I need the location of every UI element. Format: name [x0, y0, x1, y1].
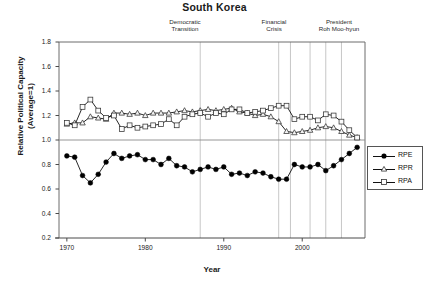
data-point-filled-circle [276, 177, 281, 182]
data-point-open-square [151, 123, 156, 128]
series-rpe [64, 145, 359, 185]
data-point-filled-circle [206, 165, 211, 170]
data-point-open-square [308, 114, 313, 119]
data-point-open-square [316, 118, 321, 123]
open-square-icon [380, 178, 388, 186]
legend-label-rpe: RPE [398, 151, 412, 158]
filled-circle-icon [380, 152, 388, 160]
data-point-open-square [276, 103, 281, 108]
chart-figure: South Korea Democratic Transition Financ… [0, 0, 429, 289]
data-point-open-square [300, 114, 305, 119]
legend-item-rpr[interactable]: RPR [371, 163, 423, 175]
data-point-open-square [80, 105, 85, 110]
data-point-filled-circle [190, 169, 195, 174]
data-point-open-square [284, 103, 289, 108]
data-point-open-square [72, 123, 77, 128]
data-point-open-square [347, 128, 352, 133]
data-point-open-triangle [276, 119, 282, 124]
data-point-open-square [104, 116, 109, 121]
data-point-filled-circle [221, 165, 226, 170]
plot-area [0, 0, 429, 289]
legend-label-rpr: RPR [398, 164, 413, 171]
data-point-open-triangle [323, 124, 329, 129]
data-point-open-square [159, 122, 164, 127]
data-point-filled-circle [245, 173, 250, 178]
data-point-open-square [64, 120, 69, 125]
legend-label-rpa: RPA [398, 177, 412, 184]
data-point-filled-circle [268, 174, 273, 179]
data-point-open-square [206, 114, 211, 119]
data-point-open-square [331, 113, 336, 118]
data-point-filled-circle [159, 162, 164, 167]
data-point-open-square [339, 119, 344, 124]
data-point-filled-circle [72, 155, 77, 160]
data-point-open-square [355, 135, 360, 140]
data-point-open-triangle [182, 108, 188, 113]
data-point-filled-circle [261, 171, 266, 176]
series-line [67, 147, 357, 183]
data-point-open-square [229, 107, 234, 112]
data-point-open-square [237, 107, 242, 112]
data-point-filled-circle [135, 152, 140, 157]
data-point-open-square [253, 109, 258, 114]
data-point-filled-circle [88, 180, 93, 185]
data-point-open-square [245, 111, 250, 116]
data-point-filled-circle [151, 157, 156, 162]
data-point-filled-circle [80, 173, 85, 178]
data-point-filled-circle [331, 163, 336, 168]
data-point-filled-circle [127, 154, 132, 159]
data-point-open-square [182, 114, 187, 119]
data-point-filled-circle [339, 157, 344, 162]
data-point-open-square [261, 108, 266, 113]
data-point-filled-circle [284, 177, 289, 182]
data-point-filled-circle [64, 154, 69, 159]
data-point-filled-circle [292, 162, 297, 167]
data-point-filled-circle [96, 172, 101, 177]
data-point-open-triangle [205, 106, 211, 111]
data-point-filled-circle [229, 172, 234, 177]
data-point-open-square [221, 112, 226, 117]
data-point-filled-circle [323, 168, 328, 173]
data-point-open-square [135, 125, 140, 130]
chart-legend: RPE RPR RPA [367, 146, 423, 190]
data-point-open-triangle [135, 110, 141, 115]
series-line [67, 100, 357, 138]
data-point-open-triangle [88, 114, 94, 119]
data-point-open-square [112, 113, 117, 118]
data-point-open-square [323, 112, 328, 117]
data-point-filled-circle [214, 167, 219, 172]
data-point-filled-circle [198, 167, 203, 172]
data-point-open-square [198, 111, 203, 116]
data-point-open-square [127, 123, 132, 128]
data-point-filled-circle [308, 165, 313, 170]
data-point-open-square [96, 108, 101, 113]
data-point-filled-circle [237, 171, 242, 176]
data-point-filled-circle [355, 145, 360, 150]
data-point-open-square [119, 127, 124, 132]
data-point-filled-circle [253, 169, 258, 174]
series-rpa [64, 97, 359, 140]
open-triangle-icon [380, 165, 388, 173]
data-point-filled-circle [300, 165, 305, 170]
series-line [67, 108, 357, 137]
data-point-open-square [166, 117, 171, 122]
data-point-filled-circle [166, 156, 171, 161]
data-point-open-square [174, 123, 179, 128]
data-point-open-square [268, 106, 273, 111]
data-point-filled-circle [104, 160, 109, 165]
data-point-filled-circle [143, 157, 148, 162]
data-point-filled-circle [112, 151, 117, 156]
legend-item-rpa[interactable]: RPA [371, 176, 423, 188]
data-point-open-triangle [339, 129, 345, 134]
data-point-filled-circle [182, 165, 187, 170]
data-point-open-square [143, 124, 148, 129]
data-point-filled-circle [174, 163, 179, 168]
data-point-open-square [292, 117, 297, 122]
data-point-filled-circle [347, 151, 352, 156]
data-point-filled-circle [316, 162, 321, 167]
data-point-open-square [88, 97, 93, 102]
data-point-open-square [214, 111, 219, 116]
data-point-open-square [190, 112, 195, 117]
legend-item-rpe[interactable]: RPE [371, 150, 423, 162]
data-point-filled-circle [119, 156, 124, 161]
